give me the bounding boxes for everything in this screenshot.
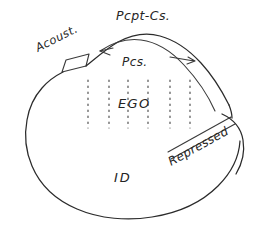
label-repressed: Repressed: [166, 124, 231, 169]
freud-structural-diagram: Pcpt-Cs. Acoust. Pcs. EGO ID Repressed: [0, 0, 259, 225]
acoustic-cap-shape: [62, 54, 89, 72]
label-ego: EGO: [118, 96, 150, 111]
label-id: ID: [114, 170, 131, 185]
diagram-canvas: Pcpt-Cs. Acoust. Pcs. EGO ID Repressed: [0, 0, 259, 225]
label-pcs: Pcs.: [122, 55, 148, 69]
label-acoust: Acoust.: [32, 22, 80, 56]
psyche-outline-dome-descent: [229, 105, 232, 118]
label-pcpt-cs: Pcpt-Cs.: [116, 8, 170, 23]
